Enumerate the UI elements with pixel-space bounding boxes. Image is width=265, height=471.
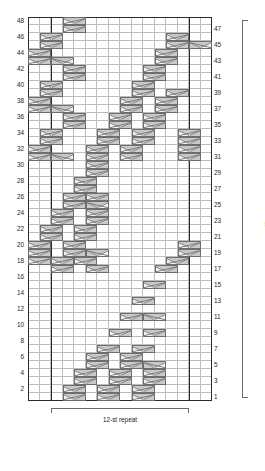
chart-cell: [86, 329, 98, 337]
cable-cross-symbol: [86, 201, 109, 209]
chart-cell: [166, 209, 178, 217]
cable-cross-symbol: [86, 161, 109, 169]
chart-cell: [189, 305, 201, 313]
chart-cell: [97, 25, 109, 33]
row-number-right: 39: [214, 90, 236, 96]
chart-cell: [97, 377, 109, 385]
chart-cell: [166, 353, 178, 361]
chart-cell: [51, 49, 63, 57]
chart-cell: [201, 385, 213, 393]
chart-cell: [166, 81, 178, 89]
chart-cell: [28, 353, 40, 361]
chart-cell: [166, 17, 178, 25]
cable-cross-symbol: [143, 377, 166, 385]
chart-cell: [63, 233, 75, 241]
chart-cell: [51, 177, 63, 185]
chart-cell: [120, 337, 132, 345]
chart-cell: [132, 217, 144, 225]
chart-cell: [63, 177, 75, 185]
chart-cell: [63, 169, 75, 177]
chart-cell: [132, 177, 144, 185]
chart-cell: [28, 345, 40, 353]
chart-cell: [28, 233, 40, 241]
chart-cell: [51, 169, 63, 177]
chart-cell: [132, 169, 144, 177]
chart-cell: [63, 361, 75, 369]
chart-cell: [178, 289, 190, 297]
chart-cell: [109, 297, 121, 305]
chart-cell: [63, 353, 75, 361]
chart-cell: [28, 41, 40, 49]
chart-cell: [51, 289, 63, 297]
chart-cell: [189, 377, 201, 385]
row-numbers-right: 4745434139373533312927252321191715131197…: [214, 0, 240, 471]
row-number-right: 15: [214, 282, 236, 288]
chart-cell: [166, 361, 178, 369]
chart-cell: [189, 105, 201, 113]
row-number-left: 14: [4, 290, 24, 296]
cable-cross-symbol: [86, 353, 109, 361]
chart-cell: [155, 273, 167, 281]
chart-cell: [201, 369, 213, 377]
chart-cell: [155, 241, 167, 249]
chart-cell: [86, 337, 98, 345]
chart-cell: [28, 369, 40, 377]
chart-cell: [189, 233, 201, 241]
stitch-repeat-label: 12-st repeat: [51, 416, 189, 423]
chart-cell: [201, 225, 213, 233]
chart-cell: [74, 169, 86, 177]
chart-cell: [201, 113, 213, 121]
chart-cell: [40, 321, 52, 329]
chart-cell: [201, 89, 213, 97]
cable-cross-symbol: [51, 105, 74, 113]
chart-cell: [74, 289, 86, 297]
chart-cell: [97, 273, 109, 281]
chart-cell: [74, 129, 86, 137]
row-number-left: 18: [4, 258, 24, 264]
chart-cell: [63, 161, 75, 169]
chart-cell: [51, 241, 63, 249]
row-number-right: 3: [214, 378, 236, 384]
chart-cell: [178, 345, 190, 353]
chart-cell: [51, 65, 63, 73]
cable-cross-symbol: [120, 353, 143, 361]
row-number-left: 2: [4, 386, 24, 392]
chart-cell: [132, 305, 144, 313]
chart-cell: [109, 281, 121, 289]
cable-cross-symbol: [86, 265, 109, 273]
chart-cell: [143, 241, 155, 249]
chart-cell: [120, 169, 132, 177]
repeat-separator-line: [189, 17, 190, 401]
chart-cell: [166, 193, 178, 201]
row-number-left: 36: [4, 114, 24, 120]
chart-cell: [28, 33, 40, 41]
chart-cell: [178, 217, 190, 225]
chart-cell: [132, 289, 144, 297]
chart-cell: [132, 185, 144, 193]
chart-cell: [51, 353, 63, 361]
chart-cell: [74, 281, 86, 289]
chart-cell: [86, 49, 98, 57]
chart-cell: [120, 81, 132, 89]
chart-cell: [97, 305, 109, 313]
chart-cell: [51, 361, 63, 369]
chart-cell: [63, 329, 75, 337]
chart-cell: [201, 233, 213, 241]
cable-cross-symbol: [40, 33, 63, 41]
row-number-left: 24: [4, 210, 24, 216]
chart-cell: [178, 57, 190, 65]
chart-cell: [189, 225, 201, 233]
chart-cell: [74, 33, 86, 41]
chart-cell: [189, 321, 201, 329]
chart-cell: [189, 345, 201, 353]
chart-cell: [120, 161, 132, 169]
chart-cell: [201, 97, 213, 105]
chart-cell: [97, 289, 109, 297]
cable-cross-symbol: [97, 385, 120, 393]
cable-cross-symbol: [74, 177, 97, 185]
chart-cell: [178, 113, 190, 121]
chart-cell: [201, 137, 213, 145]
chart-cell: [28, 313, 40, 321]
cable-cross-symbol: [40, 81, 63, 89]
chart-cell: [132, 377, 144, 385]
